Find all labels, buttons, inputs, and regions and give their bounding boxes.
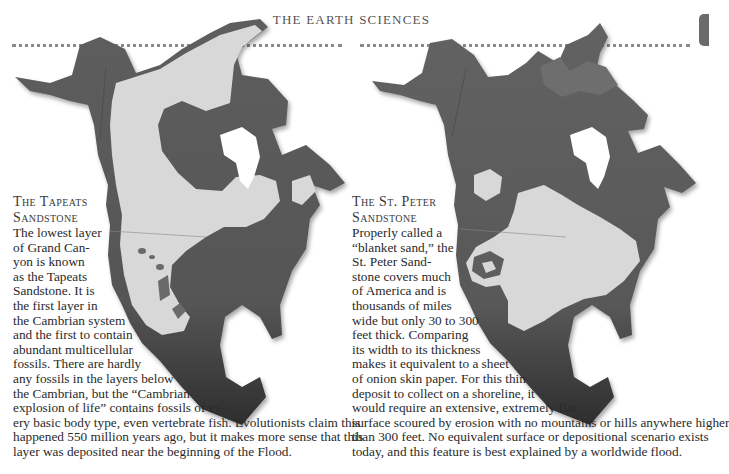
sidebar-title-line2: Sandstone xyxy=(13,210,363,226)
body-line: of onion skin paper. For this thin xyxy=(352,372,729,387)
body-line: ery basic body type, even vertebrate fis… xyxy=(13,416,363,431)
running-head: THE EARTH SCIENCES xyxy=(0,12,703,28)
sidebar-title-line2: Sandstone xyxy=(352,210,729,226)
body-line: Properly called a xyxy=(352,226,729,241)
body-line: abundant multicellular xyxy=(13,343,363,358)
body-line: happened 550 million years ago, but it m… xyxy=(13,430,363,445)
body-line: stone covers much xyxy=(352,270,729,285)
body-line: of Grand Can- xyxy=(13,241,363,256)
body-line: would require an extensive, extremely fl… xyxy=(352,401,729,416)
body-line: than 300 feet. No equivalent surface or … xyxy=(352,430,729,445)
body-line: its width to its thickness xyxy=(352,343,729,358)
body-line: the first layer in xyxy=(13,299,363,314)
body-line: makes it equivalent to a sheet xyxy=(352,357,729,372)
body-line: surface scoured by erosion with no mount… xyxy=(352,416,729,431)
body-line: and the first to contain xyxy=(13,328,363,343)
body-line: deposit to collect on a shoreline, it xyxy=(352,387,729,402)
body-line: “blanket sand,” the xyxy=(352,241,729,256)
st-peter-sandstone-sidebar: The St. Peter Sandstone Properly called … xyxy=(352,194,729,460)
sidebar-title-line1: The St. Peter xyxy=(352,194,729,210)
body-line: as the Tapeats xyxy=(13,270,363,285)
body-line: the Cambrian, but the “Cambrian xyxy=(13,387,363,402)
body-line: explosion of life” contains fossils of e… xyxy=(13,401,363,416)
body-line: layer was deposited near the beginning o… xyxy=(13,445,363,460)
body-line: St. Peter Sand- xyxy=(352,255,729,270)
sidebar-title-line1: The Tapeats xyxy=(13,194,363,210)
body-line: fossils. There are hardly xyxy=(13,357,363,372)
body-line: wide but only 30 to 300 xyxy=(352,314,729,329)
body-line: today, and this feature is best explaine… xyxy=(352,445,729,460)
body-line: feet thick. Comparing xyxy=(352,328,729,343)
tapeats-sandstone-sidebar: The Tapeats Sandstone The lowest layer o… xyxy=(13,194,363,460)
body-line: the Cambrian system xyxy=(13,314,363,329)
chapter-tab-marker xyxy=(699,14,709,46)
body-line: Sandstone. It is xyxy=(13,284,363,299)
body-line: The lowest layer xyxy=(13,226,363,241)
body-line: thousands of miles xyxy=(352,299,729,314)
body-line: of America and is xyxy=(352,284,729,299)
body-line: yon is known xyxy=(13,255,363,270)
body-line: any fossils in the layers below xyxy=(13,372,363,387)
